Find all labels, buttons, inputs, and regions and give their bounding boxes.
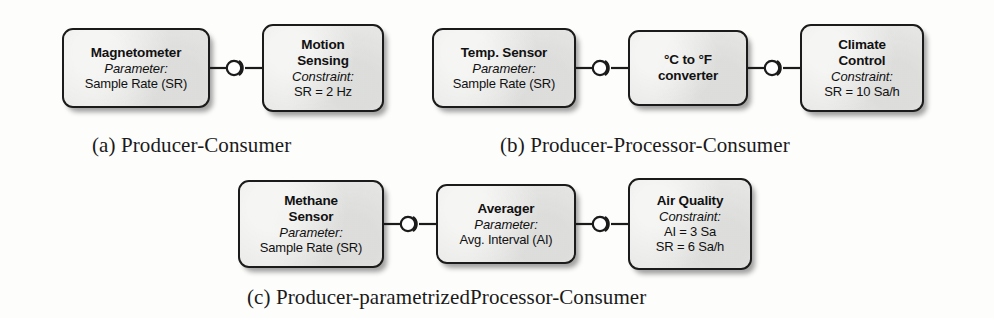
- panel-b: Temp. Sensor Parameter: Sample Rate (SR)…: [432, 24, 924, 112]
- node-title: Averager: [478, 201, 535, 217]
- caption-panel-c: (c) Producer-parametrizedProcessor-Consu…: [247, 285, 646, 310]
- node-air-quality[interactable]: Air Quality Constraint: AI = 3 Sa SR = 6…: [628, 178, 752, 270]
- node-value-2: SR = 6 Sa/h: [656, 239, 724, 254]
- node-title-line-2: converter: [658, 68, 718, 84]
- panel-c: Methane Sensor Parameter: Sample Rate (S…: [238, 178, 752, 270]
- node-title-line-1: Methane: [284, 193, 338, 209]
- node-title-line-1: Climate: [838, 37, 886, 53]
- ball-and-socket-connector[interactable]: [384, 207, 436, 241]
- panel-a: Magnetometer Parameter: Sample Rate (SR)…: [62, 24, 384, 112]
- node-title: Air Quality: [657, 193, 724, 209]
- node-motion-sensing[interactable]: Motion Sensing Constraint: SR = 2 Hz: [262, 24, 384, 112]
- node-magnetometer[interactable]: Magnetometer Parameter: Sample Rate (SR): [62, 28, 210, 108]
- caption-panel-b: (b) Producer-Processor-Consumer: [500, 133, 790, 158]
- panel-c-chain: Methane Sensor Parameter: Sample Rate (S…: [238, 178, 752, 270]
- figure-component-interaction-patterns: Magnetometer Parameter: Sample Rate (SR)…: [0, 0, 994, 318]
- caption-panel-a: (a) Producer-Consumer: [92, 133, 291, 158]
- node-value: Sample Rate (SR): [85, 76, 187, 91]
- node-value: Sample Rate (SR): [260, 240, 362, 255]
- node-title: Magnetometer: [91, 45, 181, 61]
- node-kind-label: Parameter:: [474, 217, 537, 232]
- ball-and-socket-connector[interactable]: [576, 207, 628, 241]
- node-value-1: AI = 3 Sa: [664, 224, 716, 239]
- node-title: Temp. Sensor: [461, 45, 547, 61]
- node-kind-label: Parameter:: [279, 225, 342, 240]
- node-kind-label: Constraint:: [831, 69, 893, 84]
- node-title-line-2: Sensing: [297, 53, 348, 69]
- node-title-line-2: Sensor: [289, 209, 334, 225]
- node-climate-control[interactable]: Climate Control Constraint: SR = 10 Sa/h: [800, 24, 924, 112]
- node-kind-label: Constraint:: [659, 209, 721, 224]
- node-value: Avg. Interval (AI): [460, 232, 553, 247]
- node-title-line-2: Control: [839, 53, 886, 69]
- node-kind-label: Parameter:: [104, 61, 167, 76]
- ball-and-socket-connector[interactable]: [748, 51, 800, 85]
- node-value: Sample Rate (SR): [453, 76, 555, 91]
- node-celsius-to-fahrenheit-converter[interactable]: °C to °F converter: [628, 30, 748, 106]
- panel-a-chain: Magnetometer Parameter: Sample Rate (SR)…: [62, 24, 384, 112]
- ball-and-socket-connector[interactable]: [576, 51, 628, 85]
- panel-b-chain: Temp. Sensor Parameter: Sample Rate (SR)…: [432, 24, 924, 112]
- node-value: SR = 2 Hz: [294, 84, 352, 99]
- node-kind-label: Parameter:: [472, 61, 535, 76]
- node-methane-sensor[interactable]: Methane Sensor Parameter: Sample Rate (S…: [238, 180, 384, 268]
- node-title-line-1: °C to °F: [664, 52, 712, 68]
- node-temp-sensor[interactable]: Temp. Sensor Parameter: Sample Rate (SR): [432, 28, 576, 108]
- node-kind-label: Constraint:: [292, 69, 354, 84]
- ball-and-socket-connector[interactable]: [210, 51, 262, 85]
- node-value: SR = 10 Sa/h: [824, 84, 899, 99]
- node-averager[interactable]: Averager Parameter: Avg. Interval (AI): [436, 184, 576, 264]
- node-title-line-1: Motion: [301, 37, 344, 53]
